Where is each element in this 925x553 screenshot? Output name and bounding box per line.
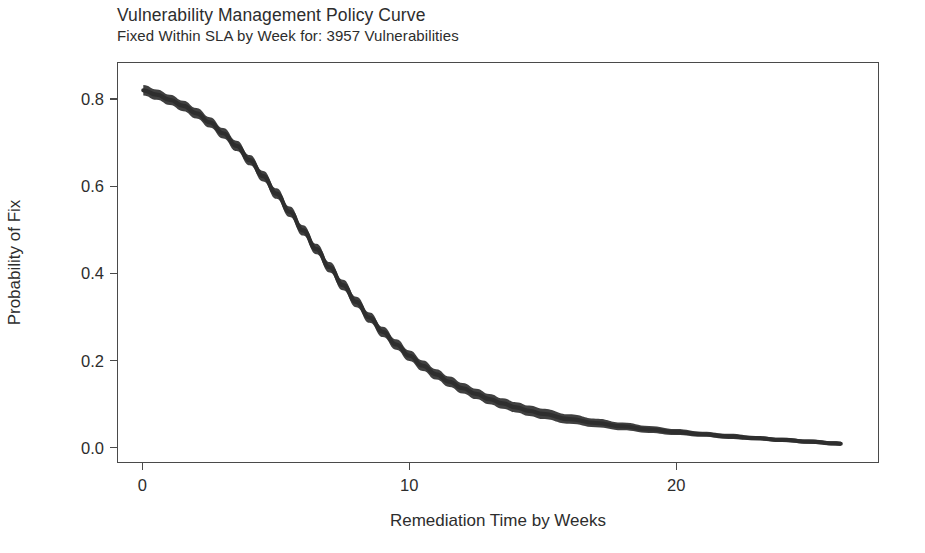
y-tick-mark — [110, 98, 117, 99]
chart-figure: Vulnerability Management Policy Curve Fi… — [0, 0, 925, 553]
y-axis-title: Probability of Fix — [0, 62, 30, 463]
x-tick-mark — [409, 463, 410, 470]
y-tick-label: 0.8 — [81, 88, 104, 110]
x-tick-label: 10 — [400, 474, 418, 496]
y-tick-label: 0.6 — [81, 175, 104, 197]
title-block: Vulnerability Management Policy Curve Fi… — [117, 4, 897, 46]
x-tick-label: 20 — [667, 474, 685, 496]
y-tick-mark — [110, 273, 117, 274]
probability-of-fix-line — [143, 90, 840, 443]
x-axis: 01020 — [117, 463, 879, 513]
y-tick-mark — [110, 186, 117, 187]
x-tick-label: 0 — [138, 474, 147, 496]
y-tick-mark — [110, 447, 117, 448]
x-tick-mark — [142, 463, 143, 470]
y-tick-label: 0.4 — [81, 262, 104, 284]
x-axis-title: Remediation Time by Weeks — [117, 509, 879, 533]
y-tick-label: 0.0 — [81, 437, 104, 459]
policy-curve-plot — [118, 63, 878, 462]
chart-title: Vulnerability Management Policy Curve — [117, 4, 897, 26]
plot-area — [117, 62, 879, 463]
y-tick-mark — [110, 360, 117, 361]
y-tick-label: 0.2 — [81, 350, 104, 372]
confidence-band — [143, 85, 840, 446]
chart-subtitle: Fixed Within SLA by Week for: 3957 Vulne… — [117, 26, 897, 46]
x-tick-mark — [676, 463, 677, 470]
